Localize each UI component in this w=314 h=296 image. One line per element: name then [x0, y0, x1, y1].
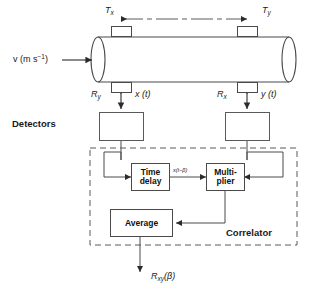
detector-box-right [225, 112, 270, 141]
label-ty: Ty [262, 6, 271, 16]
multiplier-label-line2: plier [217, 177, 235, 186]
wire-y-to-multiplier [244, 152, 283, 177]
transducer-tx [111, 26, 132, 37]
detector-output-wires [121, 141, 247, 160]
pipe-body [91, 37, 296, 82]
diagram-vector-layer [0, 0, 314, 296]
label-delayed-signal: x(t−β) [173, 167, 187, 173]
label-x-of-t: x (t) [135, 90, 151, 99]
multiplier-block: Multi- plier [206, 163, 245, 191]
label-ry: Ry [91, 90, 101, 100]
detector-box-left [99, 112, 144, 141]
time-delay-block: Time delay [131, 163, 170, 191]
label-detectors: Detectors [12, 119, 56, 129]
receiver-ry [111, 82, 132, 93]
transducer-stems [121, 26, 247, 94]
label-flow-velocity: v (m s−1) [13, 54, 48, 64]
receiver-rx [237, 82, 258, 93]
label-tx: Tx [105, 6, 114, 16]
average-block: Average [110, 209, 173, 237]
wire-multiplier-to-average [176, 191, 225, 223]
diagram-canvas: Time delay Multi- plier Average Tx Ty v … [0, 0, 314, 296]
label-output-correlation: Rxy(β) [151, 272, 175, 282]
transducer-ty [237, 26, 258, 37]
label-rx: Rx [217, 90, 227, 100]
label-correlator: Correlator [226, 228, 272, 238]
transducer-link-line [121, 16, 247, 22]
wire-x-to-timedelay [104, 152, 131, 177]
label-y-of-t: y (t) [261, 90, 277, 99]
time-delay-label-line2: delay [140, 177, 162, 186]
